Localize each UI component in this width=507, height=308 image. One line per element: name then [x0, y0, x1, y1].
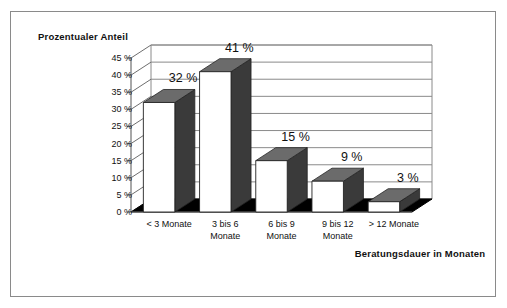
- bar-value-label: 3 %: [397, 171, 419, 185]
- bar-value-label: 9 %: [341, 150, 363, 164]
- bar-value-label: 15 %: [281, 130, 310, 144]
- bar-value-label: 41 %: [225, 41, 254, 55]
- bar-value-label: 32 %: [169, 71, 198, 85]
- bar-value-labels: 32 %41 %15 %9 %3 %: [0, 0, 507, 308]
- chart-screenshot: Prozentualer Anteil Beratungsdauer in Mo…: [0, 0, 507, 308]
